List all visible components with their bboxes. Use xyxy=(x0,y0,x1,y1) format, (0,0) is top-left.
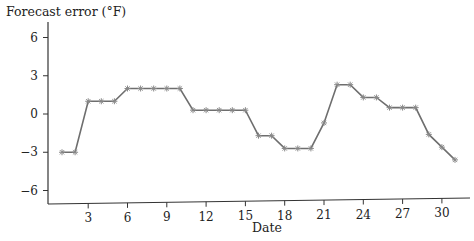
data-point-asterisk-icon xyxy=(308,145,314,151)
data-point-asterisk-icon xyxy=(216,107,222,113)
y-tick-label: −3 xyxy=(20,145,38,159)
data-point-asterisk-icon xyxy=(439,144,445,150)
data-point-asterisk-icon xyxy=(72,149,78,155)
x-tick-label: 12 xyxy=(198,210,213,224)
data-point-asterisk-icon xyxy=(125,86,131,92)
data-point-asterisk-icon xyxy=(334,82,340,88)
x-axis xyxy=(48,198,470,204)
data-point-asterisk-icon xyxy=(203,107,209,113)
data-point-asterisk-icon xyxy=(177,86,183,92)
series-line xyxy=(62,85,455,160)
data-point-asterisk-icon xyxy=(59,149,65,155)
data-point-asterisk-icon xyxy=(98,98,104,104)
data-point-asterisk-icon xyxy=(190,107,196,113)
data-point-asterisk-icon xyxy=(256,133,262,139)
data-point-asterisk-icon xyxy=(452,157,458,163)
data-point-asterisk-icon xyxy=(151,86,157,92)
x-tick-label: 15 xyxy=(238,209,253,223)
x-tick-label: 24 xyxy=(356,208,372,222)
data-point-asterisk-icon xyxy=(282,145,288,151)
data-point-asterisk-icon xyxy=(295,145,301,151)
data-point-asterisk-icon xyxy=(269,133,275,139)
data-point-asterisk-icon xyxy=(400,105,406,111)
data-point-asterisk-icon xyxy=(242,107,248,113)
x-axis-title: Date xyxy=(252,220,282,235)
data-point-asterisk-icon xyxy=(111,98,117,104)
y-tick-label: 6 xyxy=(30,31,38,45)
y-tick-label: 0 xyxy=(30,107,38,121)
data-point-asterisk-icon xyxy=(373,94,379,100)
data-point-asterisk-icon xyxy=(360,94,366,100)
data-point-asterisk-icon xyxy=(321,120,327,126)
x-tick-label: 30 xyxy=(434,206,449,220)
data-point-asterisk-icon xyxy=(229,107,235,113)
x-tick-label: 6 xyxy=(124,211,132,225)
data-point-asterisk-icon xyxy=(426,131,432,137)
x-tick-label: 21 xyxy=(316,208,331,222)
data-point-asterisk-icon xyxy=(347,82,353,88)
x-tick-label: 3 xyxy=(84,211,92,225)
x-tick-label: 27 xyxy=(395,207,410,221)
data-point-asterisk-icon xyxy=(138,86,144,92)
x-tick-label: 9 xyxy=(163,210,171,224)
data-point-asterisk-icon xyxy=(387,105,393,111)
line-chart: −6−303636912151821242730 xyxy=(0,0,474,241)
y-tick-label: 3 xyxy=(30,69,38,83)
data-point-asterisk-icon xyxy=(85,98,91,104)
data-point-asterisk-icon xyxy=(413,105,419,111)
y-tick-label: −6 xyxy=(20,184,38,198)
data-point-asterisk-icon xyxy=(164,86,170,92)
